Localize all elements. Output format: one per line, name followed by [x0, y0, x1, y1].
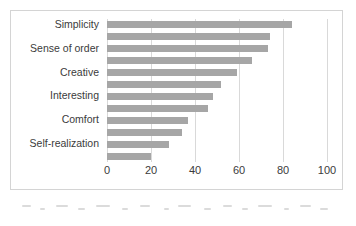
- bar-fill: [107, 93, 213, 100]
- bar-1: [107, 21, 327, 28]
- bar-fill: [107, 45, 268, 52]
- category-label-interesting: Interesting: [50, 90, 99, 101]
- bar-9: [107, 117, 327, 124]
- speckle-mark: [164, 208, 169, 210]
- speckle-mark: [40, 208, 45, 210]
- bar-11: [107, 141, 327, 148]
- category-label-simplicity: Simplicity: [55, 19, 99, 30]
- bar-fill: [107, 81, 221, 88]
- bar-fill: [107, 117, 188, 124]
- speckle-mark: [22, 205, 31, 207]
- category-axis-labels: SimplicitySense of orderCreativeInterest…: [11, 19, 103, 162]
- bar-7: [107, 93, 327, 100]
- gridline-100: [327, 19, 328, 162]
- x-tick-label-60: 60: [233, 164, 245, 176]
- speckle-mark: [300, 205, 311, 207]
- category-label-sense-of-order: Sense of order: [30, 43, 99, 54]
- plot-area: [107, 19, 327, 162]
- speckle-mark: [242, 208, 248, 210]
- bar-fill: [107, 153, 151, 160]
- speckle-mark: [204, 208, 211, 210]
- bar-2: [107, 33, 327, 40]
- speckle-mark: [284, 208, 289, 210]
- bar-fill: [107, 33, 270, 40]
- bar-10: [107, 129, 327, 136]
- bar-8: [107, 105, 327, 112]
- bar-fill: [107, 141, 169, 148]
- speckle-mark: [122, 208, 128, 210]
- x-tick-label-40: 40: [189, 164, 201, 176]
- speckle-mark: [78, 208, 85, 210]
- x-tick-label-100: 100: [318, 164, 336, 176]
- speckle-mark: [223, 205, 232, 207]
- bar-fill: [107, 57, 252, 64]
- category-label-creative: Creative: [60, 67, 99, 78]
- chart-frame: SimplicitySense of orderCreativeInterest…: [10, 10, 343, 190]
- bar-5: [107, 69, 327, 76]
- bar-6: [107, 81, 327, 88]
- bar-fill: [107, 105, 208, 112]
- bar-fill: [107, 21, 292, 28]
- x-tick-label-0: 0: [104, 164, 110, 176]
- category-label-comfort: Comfort: [62, 114, 99, 125]
- bar-12: [107, 153, 327, 160]
- speckle-mark: [258, 205, 272, 207]
- speckle-mark: [56, 205, 68, 207]
- bar-4: [107, 57, 327, 64]
- bar-fill: [107, 69, 237, 76]
- scan-artifact-speckle: [18, 205, 338, 211]
- category-label-self-realization: Self-realization: [30, 138, 99, 149]
- bar-fill: [107, 129, 182, 136]
- x-tick-label-80: 80: [277, 164, 289, 176]
- speckle-mark: [320, 208, 328, 210]
- bar-series-group: [107, 19, 327, 162]
- bar-3: [107, 45, 327, 52]
- value-axis-tick-labels: 020406080100: [107, 164, 327, 182]
- speckle-mark: [140, 205, 150, 207]
- speckle-mark: [96, 205, 110, 207]
- speckle-mark: [178, 205, 191, 207]
- x-tick-label-20: 20: [145, 164, 157, 176]
